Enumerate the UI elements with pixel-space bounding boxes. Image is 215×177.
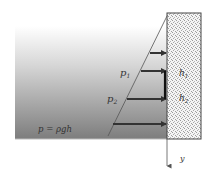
hydrostatic-pressure-diagram: p1 p2 h1 h2 p = ρgh y [0, 0, 215, 177]
formula-label: p = ρgh [38, 124, 72, 134]
fluid-region [15, 26, 167, 139]
y-axis-label: y [179, 154, 185, 163]
